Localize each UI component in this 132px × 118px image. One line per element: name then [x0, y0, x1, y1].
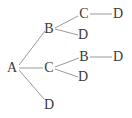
tree-diagram: A B C D C D B D D D [0, 0, 132, 118]
node-AB-D: D [76, 28, 90, 42]
node-ABC-D: D [111, 7, 125, 21]
node-A-C: C [42, 61, 56, 75]
node-AC-D: D [76, 70, 90, 84]
node-A-D: D [42, 98, 56, 112]
edge-A-B [19, 31, 45, 65]
node-AC-B: B [77, 50, 91, 64]
edge-AB-C [55, 16, 78, 28]
node-A-B: B [42, 22, 56, 36]
node-AB-C: C [77, 7, 91, 21]
edge-AC-D [55, 69, 78, 77]
node-A-root: A [5, 61, 19, 75]
edge-A-D [19, 70, 44, 99]
edge-AB-D [55, 29, 78, 35]
edge-AC-B [55, 58, 79, 67]
node-ACB-D: D [111, 50, 125, 64]
